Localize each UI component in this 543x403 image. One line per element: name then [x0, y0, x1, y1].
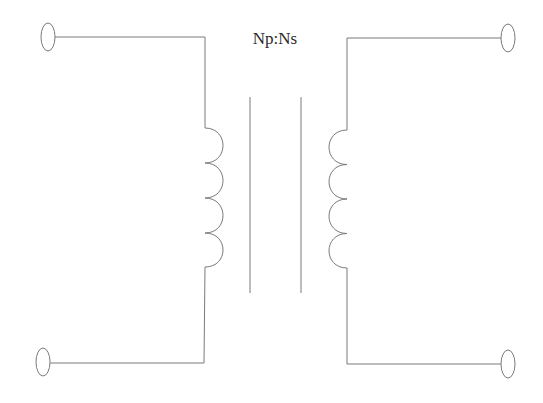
primary-bottom-wire — [50, 267, 205, 363]
turns-ratio-label: Np:Ns — [253, 29, 297, 48]
secondary-coil-icon — [329, 130, 347, 268]
primary-winding — [36, 23, 223, 376]
transformer-core — [250, 97, 301, 293]
primary-top-terminal-icon[interactable] — [41, 23, 55, 51]
secondary-top-wire — [347, 38, 501, 130]
primary-top-wire — [55, 37, 205, 128]
secondary-top-terminal-icon[interactable] — [501, 24, 515, 52]
secondary-bottom-terminal-icon[interactable] — [501, 350, 515, 378]
primary-coil-icon — [205, 128, 223, 267]
primary-bottom-terminal-icon[interactable] — [36, 348, 50, 376]
secondary-winding — [329, 24, 515, 378]
secondary-bottom-wire — [347, 268, 501, 364]
transformer-diagram: Np:Ns — [0, 0, 543, 403]
